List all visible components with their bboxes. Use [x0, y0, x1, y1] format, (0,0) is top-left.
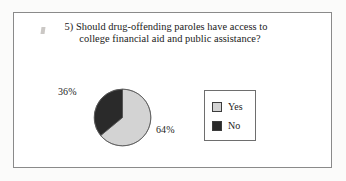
legend-label-no: No	[228, 121, 240, 131]
legend-label-yes: Yes	[228, 102, 243, 112]
survey-figure: 5) Should drug-offending paroles have ac…	[0, 0, 346, 181]
pie-label-yes-percent: 64%	[156, 124, 175, 135]
page-title: 5) Should drug-offending paroles have ac…	[42, 21, 298, 46]
legend-swatch-no-icon	[212, 121, 222, 131]
pie-label-no-percent: 36%	[58, 86, 77, 97]
pie-chart	[93, 88, 152, 147]
legend-item-no: No	[212, 117, 255, 135]
question-line-1: 5) Should drug-offending paroles have ac…	[42, 21, 298, 33]
chart-legend: Yes No	[204, 90, 256, 141]
legend-swatch-yes-icon	[212, 102, 222, 112]
legend-item-yes: Yes	[212, 98, 255, 116]
question-line-2: college financial aid and public assista…	[42, 33, 298, 45]
